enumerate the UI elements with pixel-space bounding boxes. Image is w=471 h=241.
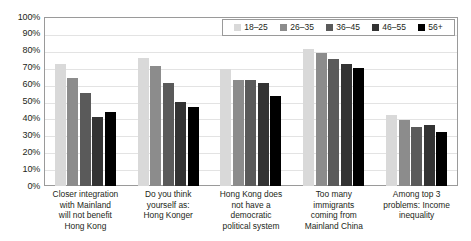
legend-swatch [326,24,333,31]
category-label: Hong Kong doesnot have ademocraticpoliti… [210,189,293,231]
bar[interactable] [245,80,256,186]
legend-label: 36–45 [336,23,360,32]
bar[interactable] [138,58,149,186]
bar[interactable] [316,53,327,187]
grouped-bar-chart: 100%90%80%70%60%50%40%30%20%10%0% 18–252… [0,0,471,241]
category-label-line: Do you think [127,189,210,200]
category-label-line: political system [210,221,293,232]
category-label-line: Too many [292,189,375,200]
bar[interactable] [150,66,161,186]
y-axis-tick-label: 40% [0,114,40,123]
y-axis-tick-label: 0% [0,182,40,191]
bar[interactable] [55,64,66,186]
y-axis-tick-label: 20% [0,148,40,157]
legend-swatch [372,24,379,31]
bar-group [292,17,375,186]
category-label-line: Hong Konger [127,210,210,221]
category-label: Too manyimmigrantscoming fromMainland Ch… [292,189,375,231]
category-label-line: Hong Kong [44,221,127,232]
category-label: Closer integrationwith Mainlandwill not … [44,189,127,231]
category-label-line: problems: Income [375,200,458,211]
legend-label: 56+ [428,23,442,32]
bar[interactable] [92,117,103,186]
category-label-line: immigrants [292,200,375,211]
category-label-line: yourself as: [127,200,210,211]
y-axis-tick-label: 70% [0,63,40,72]
legend-label: 18–25 [244,23,268,32]
category-label: Do you thinkyourself as:Hong Konger [127,189,210,221]
y-axis-tick-label: 90% [0,29,40,38]
category-label-line: inequality [375,210,458,221]
y-axis-tick-label: 30% [0,131,40,140]
bar[interactable] [220,69,231,186]
bar[interactable] [436,132,447,186]
category-label-line: Hong Kong does [210,189,293,200]
y-axis-tick-label: 60% [0,80,40,89]
y-axis-tick-label: 10% [0,165,40,174]
category-label-line: democratic [210,210,293,221]
bar-group [375,17,458,186]
bar[interactable] [353,68,364,186]
bar[interactable] [424,125,435,186]
legend-item[interactable]: 36–45 [326,23,360,32]
bar[interactable] [233,80,244,186]
category-label-line: Among top 3 [375,189,458,200]
y-axis-tick-label: 50% [0,97,40,106]
bar[interactable] [258,83,269,186]
legend-swatch [280,24,287,31]
bar[interactable] [270,96,281,186]
category-label-line: coming from [292,210,375,221]
bar[interactable] [341,64,352,186]
bar-group [127,17,210,186]
y-axis-tick-label: 80% [0,46,40,55]
bar-group [210,17,293,186]
category-label-line: Mainland China [292,221,375,232]
bar[interactable] [67,78,78,186]
bar[interactable] [163,83,174,186]
category-label-line: Closer integration [44,189,127,200]
bars-layer [44,17,458,186]
legend-item[interactable]: 56+ [418,23,442,32]
category-label: Among top 3problems: Incomeinequality [375,189,458,221]
bar[interactable] [105,112,116,186]
category-label-line: will not benefit [44,210,127,221]
legend-item[interactable]: 46–55 [372,23,406,32]
legend-item[interactable]: 18–25 [234,23,268,32]
bar[interactable] [303,49,314,186]
legend-label: 26–35 [290,23,314,32]
legend-swatch [234,24,241,31]
category-label-line: with Mainland [44,200,127,211]
bar[interactable] [386,115,397,186]
y-axis: 100%90%80%70%60%50%40%30%20%10%0% [0,0,40,241]
legend-swatch [418,24,425,31]
legend-item[interactable]: 26–35 [280,23,314,32]
bar[interactable] [411,127,422,186]
bar[interactable] [80,93,91,186]
legend-label: 46–55 [382,23,406,32]
bar[interactable] [175,102,186,187]
category-label-line: not have a [210,200,293,211]
y-axis-tick-label: 100% [0,13,40,22]
legend: 18–2526–3536–4546–5556+ [222,19,455,36]
bar[interactable] [399,120,410,186]
bar-group [44,17,127,186]
bar[interactable] [328,59,339,186]
bar[interactable] [188,107,199,186]
